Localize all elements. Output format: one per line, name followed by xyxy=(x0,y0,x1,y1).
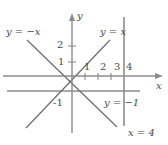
coordinate-plane-figure: y = −x y = x y = −1 x = 4 y x 2 1 -1 1 2… xyxy=(0,0,168,145)
label-y-equals-x: y = x xyxy=(100,27,126,37)
y-tick-label-1: 1 xyxy=(58,57,64,67)
x-axis-arrowhead xyxy=(155,73,163,79)
x-axis-label: x xyxy=(156,81,162,91)
y-axis-arrowhead xyxy=(69,13,75,21)
x-tick-label-3: 3 xyxy=(114,62,120,72)
y-tick-label-negative-1: -1 xyxy=(53,98,63,108)
y-axis-label: y xyxy=(77,11,83,21)
figure-canvas xyxy=(0,0,168,145)
y-tick-label-2: 2 xyxy=(57,40,63,50)
label-y-equals-negative-one: y = −1 xyxy=(104,98,139,108)
label-x-equals-four: x = 4 xyxy=(128,128,155,138)
x-tick-label-4: 4 xyxy=(126,62,132,72)
label-y-equals-negative-x: y = −x xyxy=(6,27,40,37)
x-tick-label-1: 1 xyxy=(84,62,90,72)
x-tick-label-2: 2 xyxy=(100,62,106,72)
line-y-equals-x xyxy=(26,40,110,128)
